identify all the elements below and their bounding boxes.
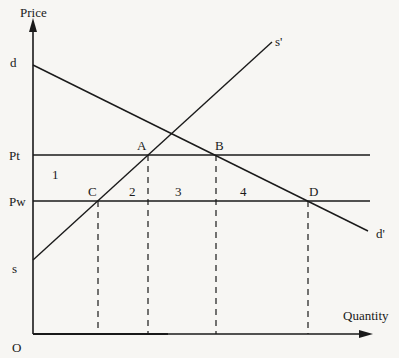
demand-start-label: d [10, 55, 17, 70]
demand-end-label: d' [376, 226, 385, 241]
area-4-label: 4 [240, 184, 247, 199]
supply-start-label: s [12, 261, 17, 276]
supply-end-label: s' [275, 34, 282, 49]
x-axis-arrow-icon [359, 330, 373, 338]
y-axis-arrow-icon [29, 18, 37, 32]
point-a-label: A [137, 138, 147, 153]
pw-label: Pw [9, 194, 26, 209]
quantity-guides [98, 155, 308, 334]
point-c-label: C [88, 184, 97, 199]
x-axis-label: Quantity [343, 308, 389, 323]
supply-curve [33, 42, 272, 260]
point-d-label: D [309, 184, 318, 199]
y-axis-label: Price [20, 5, 47, 20]
point-b-label: B [215, 138, 224, 153]
origin-label: O [12, 340, 21, 355]
area-1-label: 1 [52, 167, 59, 182]
area-2-label: 2 [129, 184, 136, 199]
pt-label: Pt [9, 148, 20, 163]
demand-curve [33, 65, 368, 231]
area-3-label: 3 [175, 184, 182, 199]
tariff-diagram: Price Quantity O d d' s s' Pt Pw A B C D… [0, 0, 399, 358]
